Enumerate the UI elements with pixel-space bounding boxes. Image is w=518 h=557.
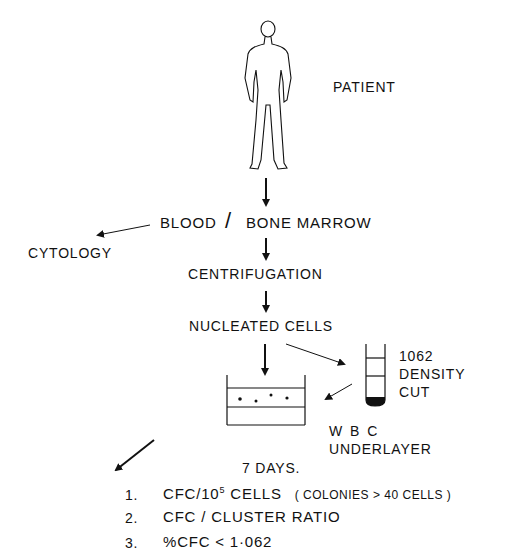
outcome-1-main: CFC/10 [163, 485, 219, 502]
sample-blood-label: BLOOD [160, 214, 217, 231]
outcome-1: CFC/105 CELLS ( COLONIES > 40 CELLS ) [163, 485, 451, 502]
outcome-1-note: ( COLONIES > 40 CELLS ) [295, 488, 452, 502]
sample-marrow-label: BONE MARROW [246, 214, 371, 231]
incubation-label: 7 DAYS. [242, 460, 300, 476]
density-label: DENSITY [399, 366, 465, 382]
colonies [238, 394, 288, 403]
cytology-label: CYTOLOGY [28, 245, 112, 261]
centrifugation-label: CENTRIFUGATION [188, 266, 323, 282]
outcome-2-number: 2. [125, 510, 138, 526]
sample-separator: / [225, 208, 232, 234]
outcome-1-rest: CELLS [225, 485, 282, 502]
cut-label: CUT [399, 384, 430, 400]
outcome-2: CFC / CLUSTER RATIO [163, 508, 340, 525]
nucleated-cells-label: NUCLEATED CELLS [189, 318, 333, 334]
arrow-to-tube [286, 344, 344, 364]
outcome-1-number: 1. [125, 487, 138, 503]
patient-figure-icon [245, 21, 291, 169]
density-value: 1062 [399, 348, 433, 364]
underlayer-label: UNDERLAYER [329, 441, 432, 457]
density-tube-icon [366, 344, 385, 406]
outcome-3: %CFC < 1·062 [163, 533, 272, 550]
cell-pellet [366, 397, 385, 406]
wbc-label: W B C [329, 423, 379, 439]
arrow-to-results [116, 440, 154, 470]
arrow-to-cytology [98, 225, 150, 235]
outcome-3-number: 3. [125, 535, 138, 551]
arrow-tube-to-dish [326, 384, 352, 399]
patient-label: PATIENT [333, 79, 396, 95]
